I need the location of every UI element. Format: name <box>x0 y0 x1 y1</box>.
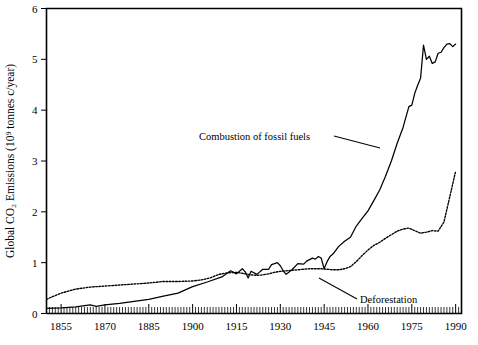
y-axis-tick-label: 6 <box>32 3 38 15</box>
deforestation-annotation-text: Deforestation <box>360 294 418 305</box>
y-axis-tick-label: 4 <box>32 104 38 116</box>
y-axis-label: Global CO₂ Emissions (10⁹ tonnes c/year) <box>4 64 17 258</box>
y-axis-tick-label: 2 <box>32 206 38 218</box>
y-axis-tick-label: 3 <box>32 155 38 167</box>
co2-emissions-chart: Global CO₂ Emissions (10⁹ tonnes c/year)… <box>0 0 478 345</box>
x-axis-tick-label: 1990 <box>445 320 468 332</box>
x-axis-tick-label: 1900 <box>182 320 205 332</box>
x-axis-tick-label: 1975 <box>401 320 424 332</box>
y-axis-tick-label: 1 <box>32 257 38 269</box>
x-axis-tick-label: 1870 <box>94 320 117 332</box>
x-axis-tick-label: 1915 <box>225 320 248 332</box>
x-axis-tick-label: 1885 <box>138 320 161 332</box>
x-axis-tick-label: 1855 <box>50 320 73 332</box>
x-axis-tick-label: 1945 <box>313 320 336 332</box>
chart-canvas: Global CO₂ Emissions (10⁹ tonnes c/year)… <box>0 0 478 345</box>
x-axis-tick-label: 1930 <box>269 320 292 332</box>
fossil-fuels-annotation-text: Combustion of fossil fuels <box>199 131 310 142</box>
y-axis-tick-label: 5 <box>32 53 38 65</box>
x-axis-tick-label: 1960 <box>357 320 380 332</box>
y-axis-tick-label: 0 <box>32 308 38 320</box>
y-axis-label-text: Global CO₂ Emissions (10⁹ tonnes c/year) <box>4 64 17 258</box>
